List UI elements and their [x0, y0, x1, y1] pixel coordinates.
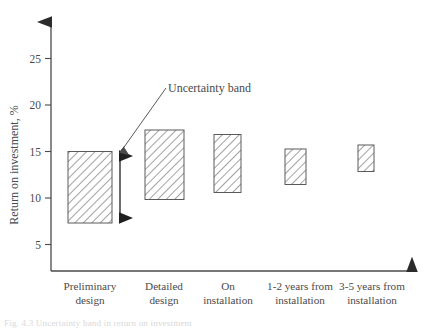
y-tick-label-20: 20 — [30, 99, 42, 111]
roi-uncertainty-chart: 5 10 15 20 25 Return on investment, % Un… — [0, 0, 430, 329]
y-tick-label-10: 10 — [30, 192, 42, 204]
x-tick-label-3-5-years-line1: 3-5 years from — [339, 280, 405, 292]
y-tick-label-25: 25 — [30, 53, 42, 65]
x-tick-label-3-5-years-line2: installation — [347, 294, 397, 306]
range-bar-1-2-years-from-installation — [285, 149, 306, 185]
y-axis-title: Return on investment, % — [7, 105, 21, 224]
x-tick-label-on-installation-line1: On — [221, 280, 235, 292]
uncertainty-band-annotation-label: Uncertainty band — [168, 81, 251, 95]
y-tick-label-15: 15 — [30, 146, 42, 158]
figure-container: 5 10 15 20 25 Return on investment, % Un… — [0, 0, 430, 329]
x-tick-label-1-2-years-line1: 1-2 years from — [267, 280, 333, 292]
x-tick-label-detailed-design-line2: design — [149, 294, 179, 306]
figure-caption: Fig. 4.3 Uncertainty band in return on i… — [4, 318, 192, 328]
range-bar-detailed-design — [145, 130, 184, 200]
range-bar-preliminary-design — [68, 152, 112, 224]
x-tick-label-preliminary-design-line1: Preliminary — [64, 280, 117, 292]
range-bar-on-installation — [214, 135, 241, 193]
y-tick-label-5: 5 — [35, 239, 41, 251]
x-tick-label-preliminary-design-line2: design — [75, 294, 105, 306]
x-tick-label-detailed-design-line1: Detailed — [145, 280, 183, 292]
x-tick-label-1-2-years-line2: installation — [275, 294, 325, 306]
x-tick-label-on-installation-line2: installation — [203, 294, 253, 306]
range-bar-3-5-years-from-installation — [358, 145, 374, 172]
